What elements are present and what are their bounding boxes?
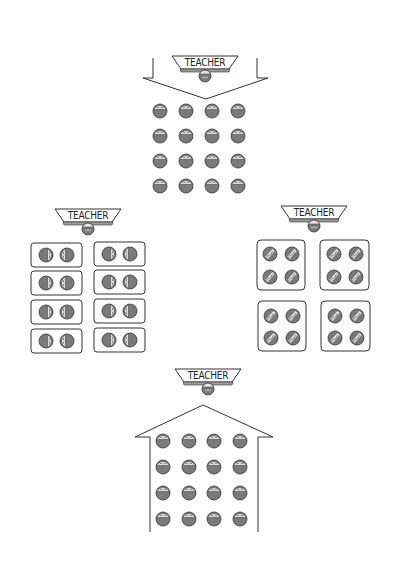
layout-groups-of-four bbox=[257, 206, 370, 351]
teacher-label-groups: TEACHER bbox=[284, 208, 344, 218]
teacher-label-bottom: TEACHER bbox=[178, 371, 238, 381]
pair-tables bbox=[31, 242, 145, 353]
student-grid bbox=[153, 104, 245, 193]
quad-tables bbox=[257, 240, 370, 351]
teacher-label-top: TEACHER bbox=[175, 58, 235, 68]
layout-pairs bbox=[31, 209, 145, 353]
layout-traditional-rows bbox=[143, 56, 268, 193]
layout-students-facing-teacher bbox=[135, 369, 273, 532]
teacher-label-pairs: TEACHER bbox=[58, 211, 118, 221]
classroom-layouts-diagram bbox=[0, 0, 394, 562]
student-grid bbox=[156, 434, 247, 526]
house-arrow-outline bbox=[135, 405, 273, 532]
